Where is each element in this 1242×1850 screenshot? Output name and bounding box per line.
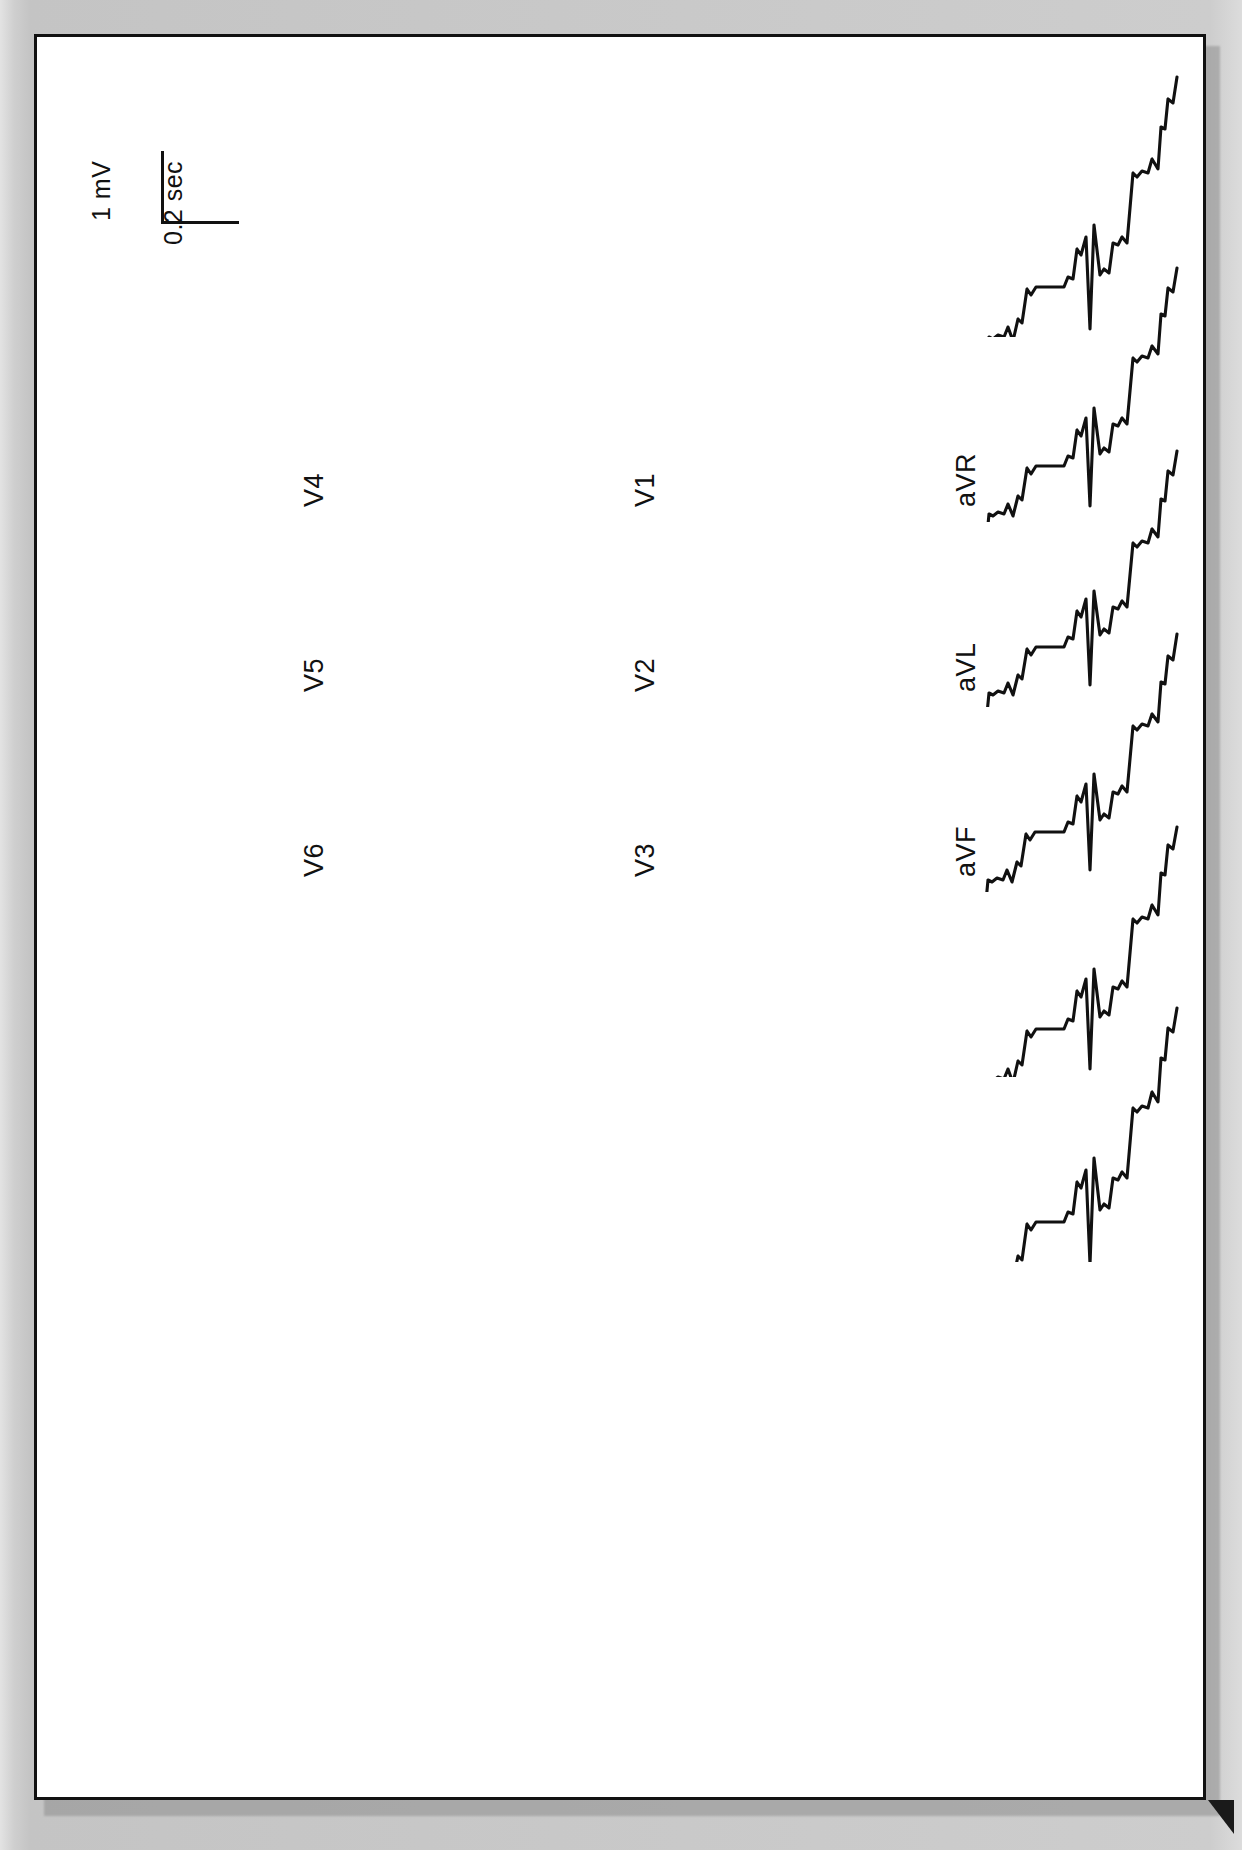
ecg-page: 1 mV 0.2 sec V4 V1 aVR I V5 V2 aVL II xyxy=(34,34,1206,1800)
ecg-canvas: 1 mV 0.2 sec V4 V1 aVR I V5 V2 aVL II xyxy=(37,37,1203,1797)
ecg-trace-rhythm-3 xyxy=(37,962,1203,1262)
page-corner-marker xyxy=(1208,1800,1234,1834)
